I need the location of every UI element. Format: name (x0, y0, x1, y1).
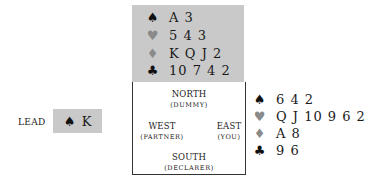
east-hearts-cards: Q J 10 9 6 2 (276, 109, 366, 125)
east-diamonds-row: ♦ A 8 (253, 126, 301, 142)
east-label: EAST (YOU) (213, 121, 245, 143)
north-spades-row: ♠ A 3 (146, 10, 194, 26)
diamond-icon: ♦ (253, 126, 267, 142)
spade-icon: ♠ (253, 92, 267, 108)
east-clubs-cards: 9 6 (276, 143, 300, 159)
north-diamonds-row: ♦ K Q J 2 (146, 46, 222, 62)
lead-card: ♠ K (53, 109, 102, 133)
east-hearts-row: ♥ Q J 10 9 6 2 (253, 109, 366, 125)
north-spades-cards: A 3 (169, 10, 194, 26)
east-clubs-row: ♣ 9 6 (253, 143, 300, 159)
north-hearts-row: ♥ 5 4 3 (146, 28, 207, 44)
west-role: (PARTNER) (137, 132, 187, 143)
north-clubs-row: ♣ 10 7 4 2 (146, 63, 231, 79)
north-clubs-cards: 10 7 4 2 (169, 63, 231, 79)
west-position: WEST (137, 121, 187, 132)
east-spades-row: ♠ 6 4 2 (253, 92, 314, 108)
north-position: NORTH (133, 89, 245, 100)
west-label: WEST (PARTNER) (137, 121, 187, 143)
lead-card-rank: K (82, 114, 92, 129)
east-spades-cards: 6 4 2 (276, 92, 314, 108)
north-role: (DUMMY) (133, 100, 245, 111)
north-hearts-cards: 5 4 3 (169, 28, 207, 44)
spade-icon: ♠ (146, 10, 160, 26)
east-diamonds-cards: A 8 (276, 126, 301, 142)
north-diamonds-cards: K Q J 2 (169, 46, 222, 62)
club-icon: ♣ (146, 63, 160, 79)
diamond-icon: ♦ (146, 46, 160, 62)
heart-icon: ♥ (146, 28, 160, 44)
south-label: SOUTH (DECLARER) (133, 152, 245, 174)
club-icon: ♣ (253, 143, 267, 159)
compass-table: NORTH (DUMMY) WEST (PARTNER) EAST (YOU) … (132, 82, 246, 175)
south-position: SOUTH (133, 152, 245, 163)
east-role: (YOU) (213, 132, 245, 143)
south-role: (DECLARER) (133, 163, 245, 174)
spade-icon: ♠ (64, 114, 76, 129)
heart-icon: ♥ (253, 109, 267, 125)
east-position: EAST (213, 121, 245, 132)
north-label: NORTH (DUMMY) (133, 89, 245, 111)
north-hand-panel: ♠ A 3 ♥ 5 4 3 ♦ K Q J 2 ♣ 10 7 4 2 (132, 5, 244, 82)
lead-label: LEAD (18, 116, 45, 128)
